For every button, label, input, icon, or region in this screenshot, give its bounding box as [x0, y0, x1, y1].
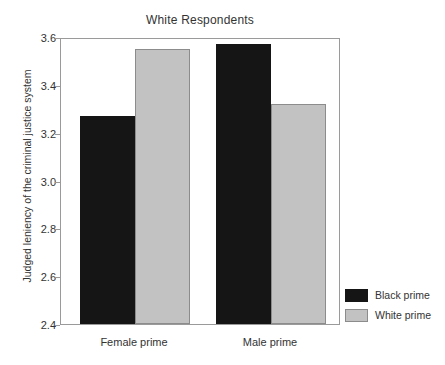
y-tick-label: 3.0	[0, 176, 56, 188]
plot-inner	[61, 39, 339, 324]
legend-label: Black prime	[375, 289, 430, 301]
legend-swatch-icon	[345, 309, 368, 322]
plot-area	[60, 38, 340, 325]
chart-title: White Respondents	[60, 13, 340, 27]
y-tick-label: 3.6	[0, 32, 56, 44]
y-tick-label: 2.8	[0, 223, 56, 235]
bar-female-prime-black-prime	[80, 116, 135, 324]
chart-figure: White Respondents Judged leniency of the…	[0, 0, 445, 365]
y-tick-label: 3.4	[0, 80, 56, 92]
y-tick-label: 3.2	[0, 128, 56, 140]
y-tick-mark	[55, 325, 60, 326]
x-tick-label-male-prime: Male prime	[243, 336, 297, 348]
bar-male-prime-white-prime	[271, 104, 326, 324]
chart-legend: Black primeWhite prime	[345, 288, 441, 328]
legend-item-white-prime[interactable]: White prime	[345, 308, 441, 322]
x-tick-label-female-prime: Female prime	[100, 336, 167, 348]
legend-swatch-icon	[345, 289, 368, 302]
y-tick-label: 2.4	[0, 319, 56, 331]
y-tick-label: 2.6	[0, 271, 56, 283]
bar-female-prime-white-prime	[135, 49, 190, 324]
bar-male-prime-black-prime	[216, 44, 271, 324]
legend-label: White prime	[375, 309, 431, 321]
legend-item-black-prime[interactable]: Black prime	[345, 288, 441, 302]
